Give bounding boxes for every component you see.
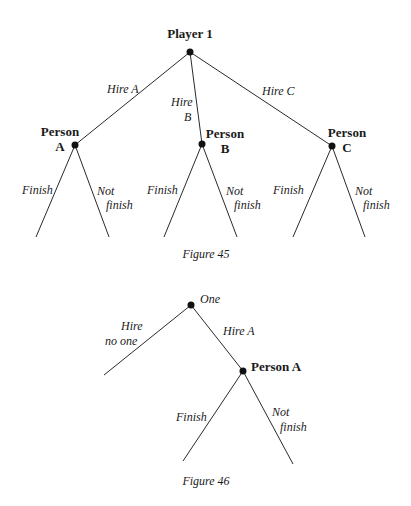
label-hire-b-line2: B	[184, 110, 192, 124]
label-person-c-line1: Person	[328, 125, 367, 140]
label-a-finish-lower: finish	[106, 198, 133, 212]
label-person-b-line1: Person	[206, 126, 245, 141]
node-person-a	[72, 142, 79, 149]
diagram-canvas: Player 1 Hire A Hire B Hire C Person A P…	[0, 0, 411, 506]
label-player-1: Player 1	[167, 26, 213, 41]
label-b-finish: Finish	[146, 183, 178, 197]
caption-figure-46: Figure 46	[181, 474, 229, 488]
label-hire-c: Hire C	[261, 84, 296, 98]
label-person-b-line2: B	[221, 141, 230, 156]
node-one	[188, 302, 195, 309]
label-c-finish-lower: finish	[363, 198, 390, 212]
label-b-finish-lower: finish	[234, 198, 261, 212]
label-finish: Finish	[175, 410, 207, 424]
label-a-finish: Finish	[21, 183, 53, 197]
label-not: Not	[271, 405, 290, 419]
figure-45: Player 1 Hire A Hire B Hire C Person A P…	[21, 26, 390, 261]
label-finish-lower: finish	[280, 420, 307, 434]
label-c-not: Not	[354, 184, 373, 198]
node-player-1	[187, 49, 194, 56]
caption-figure-45: Figure 45	[181, 247, 229, 261]
label-c-finish: Finish	[272, 183, 304, 197]
label-person-a: Person A	[251, 359, 302, 374]
edge-hire-a	[191, 305, 243, 371]
label-a-not: Not	[96, 184, 115, 198]
label-no-one: no one	[105, 334, 138, 348]
label-hire-a: Hire A	[106, 82, 139, 96]
node-person-a	[240, 368, 247, 375]
figure-46: One Hire no one Hire A Person A Finish N…	[104, 292, 307, 488]
label-person-a-line1: Person	[41, 124, 80, 139]
label-person-a-line2: A	[55, 139, 65, 154]
game-tree-svg: Player 1 Hire A Hire B Hire C Person A P…	[0, 0, 411, 506]
label-hire-b-line1: Hire	[170, 95, 193, 109]
label-b-not: Not	[225, 184, 244, 198]
label-hire: Hire	[120, 319, 143, 333]
node-person-b	[199, 141, 206, 148]
label-person-c-line2: C	[342, 140, 351, 155]
label-hire-a: Hire A	[222, 324, 255, 338]
label-one: One	[200, 292, 221, 306]
node-person-c	[329, 143, 336, 150]
